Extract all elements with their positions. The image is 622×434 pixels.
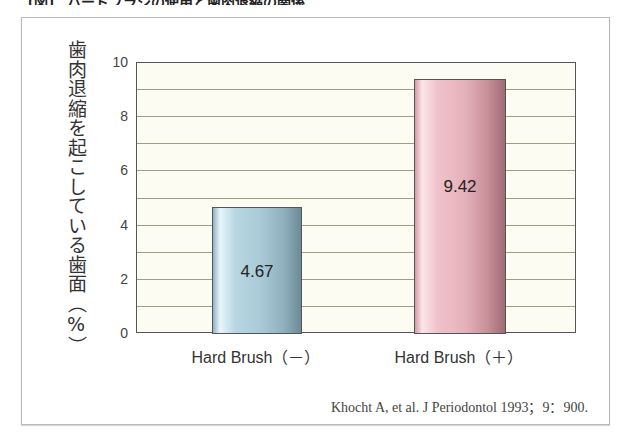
bar-value-label: 9.42 — [415, 177, 505, 197]
plot-area: 4.679.42 — [136, 62, 576, 333]
y-axis-label: 歯肉退縮を起こしている歯面（%） — [60, 40, 86, 355]
gridline — [137, 89, 575, 90]
gridline — [137, 279, 575, 280]
gridline — [137, 225, 575, 226]
source-citation: Khocht A, et al. J Periodontol 1993；9：90… — [331, 396, 588, 416]
x-tick-label: Hard Brush（＋） — [379, 344, 539, 368]
y-tick-label: 6 — [100, 162, 128, 178]
y-tick-label: 2 — [100, 271, 128, 287]
y-tick-label: 10 — [100, 54, 128, 70]
gridline — [137, 170, 575, 171]
bar-1: 4.67 — [212, 207, 302, 334]
gridline — [137, 198, 575, 199]
gridline — [137, 252, 575, 253]
gridline — [137, 306, 575, 307]
gridline — [137, 143, 575, 144]
y-tick-label: 8 — [100, 108, 128, 124]
bar-2: 9.42 — [414, 79, 506, 334]
x-tick-label: Hard Brush（－） — [176, 344, 336, 368]
y-tick-label: 0 — [100, 325, 128, 341]
bar-value-label: 4.67 — [213, 262, 301, 282]
figure-title-cut: 【図】 ハードブラシの使用と歯肉退縮の関係 — [20, 0, 440, 5]
gridline — [137, 116, 575, 117]
y-tick-label: 4 — [100, 217, 128, 233]
